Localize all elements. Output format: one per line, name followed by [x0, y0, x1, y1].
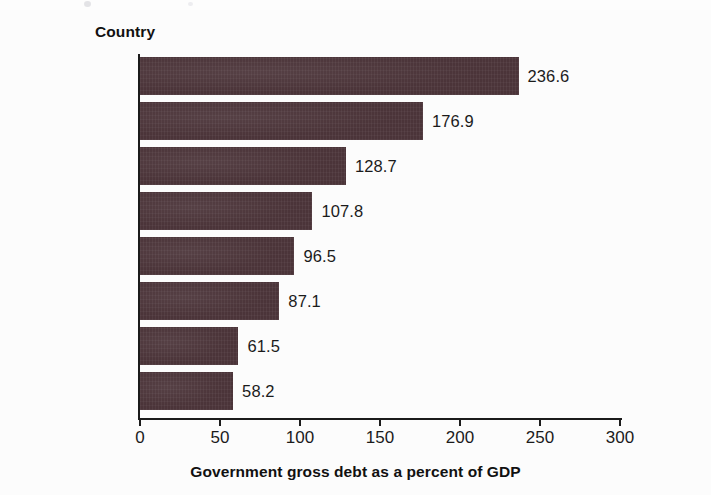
y-axis-title: Country	[95, 23, 155, 41]
x-axis-tick-label: 250	[526, 428, 554, 448]
plot-area: Japan236.6Greece176.9Italy128.7United St…	[140, 56, 620, 418]
bar	[140, 282, 279, 320]
bar	[140, 237, 294, 275]
x-axis-title: Government gross debt as a percent of GD…	[0, 463, 711, 481]
bar-row: Argentina58.2	[140, 372, 620, 410]
bar	[140, 57, 519, 95]
bar-row: Egypt87.1	[140, 282, 620, 320]
bar-value-label: 176.9	[432, 112, 474, 131]
bar-row: France96.5	[140, 237, 620, 275]
bar	[140, 192, 312, 230]
x-axis-tick	[379, 418, 381, 426]
bar-row: Israel61.5	[140, 327, 620, 365]
x-axis-tick-label: 50	[211, 428, 230, 448]
x-axis-tick-label: 150	[366, 428, 394, 448]
x-axis-tick	[619, 418, 621, 426]
scan-speck-icon	[84, 1, 91, 7]
bar-chart-figure: Country Japan236.6Greece176.9Italy128.7U…	[0, 0, 711, 495]
bar-value-label: 107.8	[321, 202, 363, 221]
bar	[140, 147, 346, 185]
x-axis-tick-label: 100	[286, 428, 314, 448]
bar	[140, 102, 423, 140]
x-axis-tick-label: 300	[606, 428, 634, 448]
x-axis-tick	[459, 418, 461, 426]
bar-value-label: 96.5	[303, 247, 336, 266]
scan-artifact	[0, 0, 711, 10]
bar-row: Italy128.7	[140, 147, 620, 185]
x-axis-tick	[299, 418, 301, 426]
bar-row: Japan236.6	[140, 57, 620, 95]
bar-value-label: 87.1	[288, 292, 321, 311]
bar-row: Greece176.9	[140, 102, 620, 140]
x-axis-tick	[219, 418, 221, 426]
scan-speck-secondary-icon	[188, 2, 193, 6]
x-axis-tick	[139, 418, 141, 426]
bar	[140, 372, 233, 410]
bar-value-label: 236.6	[528, 67, 570, 86]
bar	[140, 327, 238, 365]
bar-value-label: 58.2	[242, 382, 275, 401]
bar-row: United States107.8	[140, 192, 620, 230]
x-axis-tick-label: 200	[446, 428, 474, 448]
bar-value-label: 61.5	[247, 337, 280, 356]
bar-value-label: 128.7	[355, 157, 397, 176]
x-axis-tick	[539, 418, 541, 426]
x-axis-tick-label: 0	[135, 428, 144, 448]
